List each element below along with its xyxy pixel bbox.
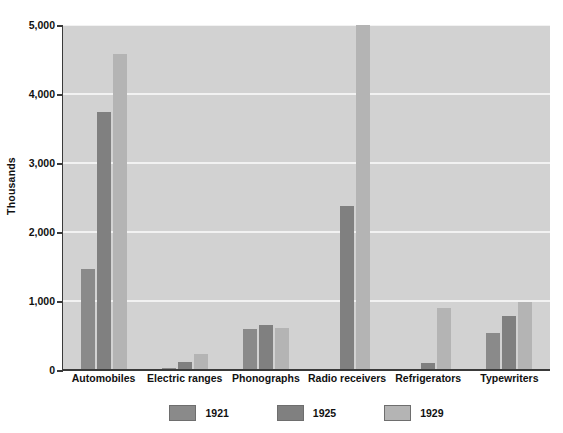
bar [194,354,208,370]
bar-group [162,25,208,370]
y-tick-label: 1,000 [29,295,55,307]
bar [502,316,516,370]
y-tick-label: 0 [49,364,55,376]
legend-label: 1921 [205,407,228,419]
bar [243,329,257,370]
x-category-label: Radio receivers [308,372,386,384]
legend-swatch-icon [277,405,304,421]
bar [356,25,370,370]
bar [259,325,273,370]
legend-swatch-icon [169,405,196,421]
legend-swatch-icon [384,405,411,421]
y-tick-mark [57,94,63,96]
y-tick-label: 4,000 [29,88,55,100]
gridline [63,300,550,302]
bar [340,206,354,370]
bar-group [486,25,532,370]
x-category-label: Electric ranges [147,372,222,384]
bar [486,333,500,370]
bar-group [405,25,451,370]
bar [275,328,289,370]
y-tick-label: 3,000 [29,157,55,169]
bar [97,112,111,370]
bar [518,302,532,370]
y-tick-mark [57,163,63,165]
chart-legend: 192119251929 [63,398,550,428]
x-category-label: Refrigerators [395,372,461,384]
y-tick-mark [57,25,63,27]
legend-item-1921[interactable]: 1921 [169,405,228,421]
x-category-label: Phonographs [232,372,300,384]
y-tick-label: 2,000 [29,226,55,238]
bar [81,269,95,370]
bar-chart: Thousands 01,0002,0003,0004,0005,000 Aut… [0,0,563,433]
y-tick-mark [57,232,63,234]
legend-label: 1925 [313,407,336,419]
y-tick-mark [57,301,63,303]
y-axis-title: Thousands [0,0,22,372]
bar [437,308,451,370]
bar [113,54,127,371]
x-axis-line [63,369,550,371]
gridline [63,25,550,26]
x-category-label: Automobiles [72,372,136,384]
legend-item-1929[interactable]: 1929 [384,405,443,421]
bar-group [324,25,370,370]
legend-label: 1929 [420,407,443,419]
x-axis-category-labels: AutomobilesElectric rangesPhonographsRad… [63,372,550,390]
y-tick-mark [57,370,63,372]
gridline [63,162,550,164]
plot-area [63,25,550,370]
legend-item-1925[interactable]: 1925 [277,405,336,421]
y-axis-tick-labels: 01,0002,0003,0004,0005,000 [20,0,60,380]
y-axis-title-label: Thousands [5,157,17,215]
x-category-label: Typewriters [480,372,538,384]
gridline [63,93,550,95]
bar-group [81,25,127,370]
gridline [63,231,550,233]
bar-group [243,25,289,370]
y-tick-label: 5,000 [29,19,55,31]
